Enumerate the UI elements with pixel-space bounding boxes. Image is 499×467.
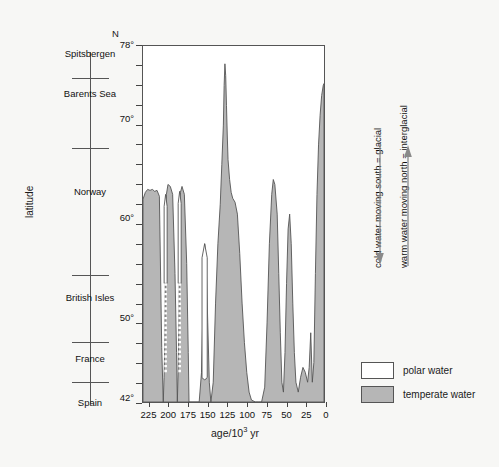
up-arrow-icon [404,145,412,266]
legend-item-temperate-water: temperate water [361,386,475,403]
legend-label-temperate-water: temperate water [403,389,475,400]
x-axis-title: age/103 yr [185,425,285,439]
chart-legend: polar water temperate water [361,362,475,410]
legend-label-polar-water: polar water [403,365,452,376]
annotation-arrows [355,140,435,270]
x-axis-title-unit: yr [247,427,259,439]
down-arrow-icon [376,144,384,265]
x-tick-label: 0 [313,409,339,420]
x-axis-title-main: age/10 [211,427,243,439]
legend-swatch-polar-water [361,362,394,379]
legend-item-polar-water: polar water [361,362,475,379]
legend-swatch-temperate-water [361,386,394,403]
